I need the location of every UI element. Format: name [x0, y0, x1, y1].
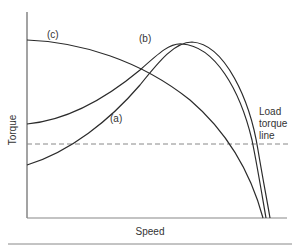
curve-b-label: (b) [139, 33, 151, 44]
x-axis-label: Speed [136, 226, 165, 237]
curve-c-label: (c) [47, 29, 59, 40]
y-axis-label: Torque [7, 114, 18, 145]
load-torque-label-line1: Load [259, 106, 281, 117]
load-torque-label-line2: torque [259, 118, 288, 129]
curve-a-label: (a) [110, 113, 122, 124]
torque-speed-diagram: (c) (b) (a) Load torque line Speed Torqu… [0, 0, 298, 248]
curve-a [27, 42, 270, 218]
load-torque-label-line3: line [259, 130, 275, 141]
